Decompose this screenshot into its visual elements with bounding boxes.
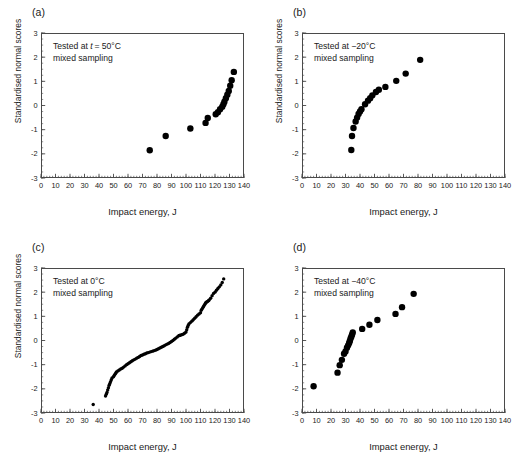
figure-normal-probability-plots: (a) Standardised normal scores 010203040… <box>0 0 522 469</box>
svg-text:110: 110 <box>456 416 468 425</box>
data-points-b <box>302 33 505 178</box>
svg-text:90: 90 <box>428 416 436 425</box>
svg-text:90: 90 <box>167 181 175 190</box>
svg-text:70: 70 <box>399 181 407 190</box>
y-axis-label-b: Standardised normal scores <box>274 1 284 141</box>
svg-text:130: 130 <box>223 416 235 425</box>
svg-text:50: 50 <box>370 181 378 190</box>
svg-text:3: 3 <box>294 264 298 273</box>
panel-d: (d) 0102030405060708090100110120130140-3… <box>261 235 522 469</box>
svg-text:80: 80 <box>414 416 422 425</box>
svg-text:-1: -1 <box>31 360 38 369</box>
svg-text:50: 50 <box>109 181 117 190</box>
svg-text:0: 0 <box>33 101 37 110</box>
svg-text:40: 40 <box>356 416 364 425</box>
svg-text:70: 70 <box>399 416 407 425</box>
svg-text:-3: -3 <box>292 174 299 183</box>
svg-text:20: 20 <box>66 416 74 425</box>
svg-text:-2: -2 <box>31 149 38 158</box>
svg-text:40: 40 <box>95 416 103 425</box>
svg-text:40: 40 <box>95 181 103 190</box>
svg-text:2: 2 <box>33 53 37 62</box>
svg-text:110: 110 <box>195 416 207 425</box>
svg-text:20: 20 <box>327 416 335 425</box>
svg-text:130: 130 <box>484 416 496 425</box>
svg-text:0: 0 <box>294 101 298 110</box>
panel-c: (c) Standardised normal scores 010203040… <box>0 235 261 469</box>
svg-text:1: 1 <box>33 312 37 321</box>
svg-text:2: 2 <box>294 288 298 297</box>
svg-text:90: 90 <box>167 416 175 425</box>
svg-text:140: 140 <box>238 181 250 190</box>
panel-a: (a) Standardised normal scores 010203040… <box>0 0 261 234</box>
svg-text:-2: -2 <box>292 149 299 158</box>
svg-text:10: 10 <box>312 416 320 425</box>
svg-text:70: 70 <box>138 416 146 425</box>
svg-text:70: 70 <box>138 181 146 190</box>
panel-label-d: (d) <box>293 241 306 253</box>
panel-b: (b) Standardised normal scores 010203040… <box>261 0 522 234</box>
svg-text:30: 30 <box>80 416 88 425</box>
x-axis-label-c: Impact energy, J <box>41 441 244 452</box>
svg-text:0: 0 <box>294 336 298 345</box>
data-points-a <box>41 33 244 178</box>
plot-area-b: 0102030405060708090100110120130140-3-2-1… <box>302 33 505 178</box>
svg-text:-3: -3 <box>292 409 299 418</box>
svg-text:3: 3 <box>33 264 37 273</box>
data-points-c <box>41 268 244 413</box>
svg-text:110: 110 <box>195 181 207 190</box>
svg-text:140: 140 <box>238 416 250 425</box>
svg-text:0: 0 <box>33 336 37 345</box>
svg-text:60: 60 <box>385 416 393 425</box>
data-points-d <box>302 268 505 413</box>
svg-text:90: 90 <box>428 181 436 190</box>
svg-text:60: 60 <box>124 416 132 425</box>
svg-text:1: 1 <box>294 77 298 86</box>
plot-area-c: 0102030405060708090100110120130140-3-2-1… <box>41 268 244 413</box>
svg-text:0: 0 <box>39 181 43 190</box>
svg-text:-2: -2 <box>292 384 299 393</box>
plot-area-d: 0102030405060708090100110120130140-3-2-1… <box>302 268 505 413</box>
svg-text:120: 120 <box>209 181 221 190</box>
plot-area-a: 0102030405060708090100110120130140-3-2-1… <box>41 33 244 178</box>
svg-text:1: 1 <box>294 312 298 321</box>
svg-text:20: 20 <box>66 181 74 190</box>
panel-label-a: (a) <box>32 6 45 18</box>
svg-text:2: 2 <box>294 53 298 62</box>
x-axis-label-a: Impact energy, J <box>41 206 244 217</box>
y-axis-label-a: Standardised normal scores <box>13 1 23 141</box>
svg-text:120: 120 <box>470 181 482 190</box>
svg-text:-1: -1 <box>292 360 299 369</box>
svg-text:100: 100 <box>441 181 453 190</box>
svg-text:130: 130 <box>223 181 235 190</box>
svg-text:10: 10 <box>312 181 320 190</box>
svg-text:1: 1 <box>33 77 37 86</box>
svg-text:10: 10 <box>51 181 59 190</box>
svg-text:50: 50 <box>109 416 117 425</box>
x-axis-label-d: Impact energy, J <box>302 441 505 452</box>
svg-text:130: 130 <box>484 181 496 190</box>
svg-text:-3: -3 <box>31 409 38 418</box>
svg-text:100: 100 <box>441 416 453 425</box>
svg-text:10: 10 <box>51 416 59 425</box>
panel-label-c: (c) <box>32 241 45 253</box>
svg-text:100: 100 <box>180 416 192 425</box>
svg-text:-3: -3 <box>31 174 38 183</box>
svg-text:140: 140 <box>499 416 511 425</box>
svg-text:80: 80 <box>153 181 161 190</box>
svg-text:-2: -2 <box>31 384 38 393</box>
svg-text:100: 100 <box>180 181 192 190</box>
svg-text:30: 30 <box>341 181 349 190</box>
svg-text:3: 3 <box>294 29 298 38</box>
svg-text:110: 110 <box>456 181 468 190</box>
panel-label-b: (b) <box>293 6 306 18</box>
svg-text:80: 80 <box>153 416 161 425</box>
svg-text:-1: -1 <box>31 125 38 134</box>
svg-text:0: 0 <box>300 181 304 190</box>
svg-text:120: 120 <box>470 416 482 425</box>
svg-text:3: 3 <box>33 29 37 38</box>
x-axis-label-b: Impact energy, J <box>302 206 505 217</box>
svg-text:30: 30 <box>80 181 88 190</box>
svg-text:40: 40 <box>356 181 364 190</box>
svg-text:-1: -1 <box>292 125 299 134</box>
